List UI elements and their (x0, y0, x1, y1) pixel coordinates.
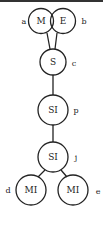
tree-diagram: M E S SI SI MI MI a b c p j d e (0, 0, 103, 234)
edge-a-c (47, 33, 50, 49)
node-e-tag: e (96, 187, 101, 196)
node-p-tag: p (73, 106, 78, 115)
node-a-tag: a (22, 17, 27, 26)
node-b-label: E (60, 16, 67, 26)
node-j-label: SI (48, 152, 58, 162)
node-j-tag: j (74, 153, 77, 162)
edge-j-e (61, 170, 67, 177)
node-e-label: MI (67, 185, 80, 195)
node-a-label: M (36, 16, 45, 26)
node-c-tag: c (72, 59, 77, 68)
node-d-label: MI (25, 185, 38, 195)
edge-j-d (38, 170, 45, 177)
node-d-tag: d (5, 186, 10, 195)
node-p-label: SI (48, 105, 58, 115)
edge-b-c (55, 33, 57, 49)
node-b-tag: b (81, 17, 86, 26)
node-c-label: S (50, 57, 56, 67)
